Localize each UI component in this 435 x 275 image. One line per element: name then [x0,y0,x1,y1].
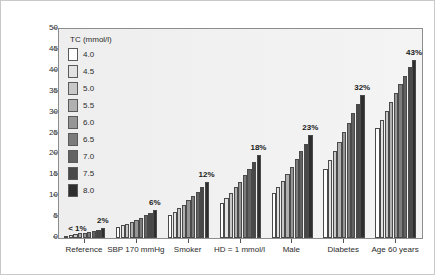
legend-label: 8.0 [83,187,94,195]
x-tick-mark [343,239,344,243]
bar [243,175,247,238]
x-tick-mark [395,239,396,243]
bar-value-label: 6% [149,198,161,207]
bar [323,169,327,238]
legend-item: 6.0 [68,114,128,131]
bar [177,208,181,238]
bar [252,162,256,238]
bar [403,76,407,238]
bar [134,220,138,238]
bar [290,167,294,238]
x-tick-label: Male [283,245,300,254]
bar-value-label: 43% [406,48,422,57]
bar [276,187,280,238]
bar [196,192,200,238]
bar [342,132,346,238]
bar [125,224,129,238]
bar [234,187,238,238]
legend-items: 4.04.55.05.56.06.57.07.58.0 [68,46,128,199]
bar [83,233,87,238]
bar [73,234,77,238]
legend-item: 5.0 [68,80,128,97]
bar [257,155,261,238]
bar [347,123,351,238]
y-axis: 5-year CVD risk/100 persons 051015202530… [1,1,58,239]
x-tick-label: SBP 170 mmHg [107,245,164,254]
bar [191,196,195,238]
bar [360,95,364,238]
legend-label: 6.0 [83,119,94,127]
x-tick-label: Smoker [174,245,202,254]
bar [87,232,91,238]
legend-label: 5.0 [83,85,94,93]
legend-swatch [68,150,78,163]
y-tick-mark [53,90,57,91]
legend-item: 4.5 [68,63,128,80]
bar [168,215,172,238]
bar [328,160,332,238]
legend-item: 7.0 [68,148,128,165]
bar [351,113,355,238]
legend-title: TC (mmol/l) [70,35,128,44]
bar [285,174,289,238]
bar [281,181,285,238]
x-axis: ReferenceSBP 170 mmHgSmokerHD = 1 mmol/l… [58,239,423,269]
bar [205,182,209,238]
bar [153,210,157,238]
x-tick-mark [240,239,241,243]
x-tick-mark [136,239,137,243]
bar [220,203,224,238]
x-tick-mark [188,239,189,243]
y-tick-mark [53,153,57,154]
legend-item: 8.0 [68,182,128,199]
y-tick-mark [53,237,57,238]
legend-swatch [68,167,78,180]
legend-swatch [68,48,78,61]
legend-swatch [68,99,78,112]
legend-label: 4.5 [83,68,94,76]
legend-label: 5.5 [83,102,94,110]
bar [389,102,393,238]
bar [139,218,143,238]
x-tick-label: HD = 1 mmol/l [214,245,265,254]
y-tick-mark [53,48,57,49]
legend-swatch [68,82,78,95]
bar-value-label: 32% [354,83,370,92]
y-tick-mark [53,111,57,112]
bar [408,67,412,238]
legend-item: 4.0 [68,46,128,63]
legend-label: 6.5 [83,136,94,144]
legend-swatch [68,65,78,78]
bar [385,111,389,238]
y-tick-mark [53,132,57,133]
bar [337,142,341,238]
bar [148,213,152,238]
bar [375,128,379,238]
bar [92,231,96,238]
legend-item: 7.5 [68,165,128,182]
legend-swatch [68,184,78,197]
y-tick-mark [53,216,57,217]
bar [186,200,190,238]
bar [96,230,100,238]
x-tick-mark [84,239,85,243]
bar [333,151,337,238]
bar [394,93,398,238]
bar [78,233,82,238]
bar [272,193,276,238]
bar [200,187,204,238]
bar [247,169,251,238]
bar-value-label: 12% [199,170,215,179]
y-tick-mark [53,28,57,29]
figure-container: 5-year CVD risk/100 persons 051015202530… [0,0,435,275]
bar [356,104,360,238]
x-tick-label: Diabetes [327,245,359,254]
legend-swatch [68,116,78,129]
bar [295,159,299,238]
bar [101,228,105,238]
y-tick-mark [53,174,57,175]
bar [224,198,228,238]
bar [130,222,134,238]
bar [380,120,384,238]
bar [304,144,308,238]
